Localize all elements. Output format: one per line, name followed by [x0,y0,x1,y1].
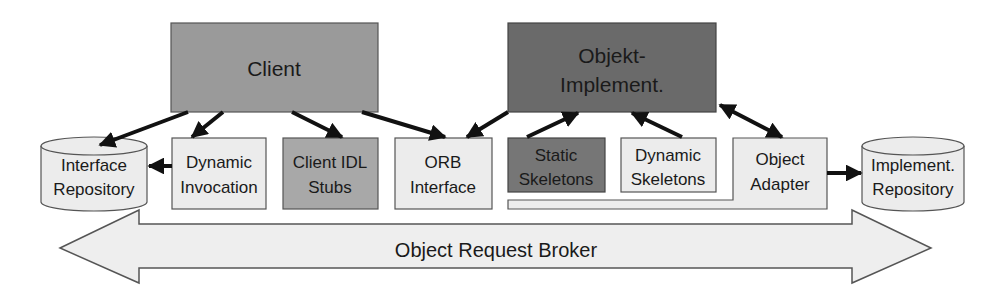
orb-interface-box: ORB Interface [395,138,492,209]
implementation-label-line2: Implement. [560,73,664,96]
dynamic-invocation-line1: Dynamic [186,153,253,172]
client-box: Client [171,23,378,112]
implementation-label-line1: Objekt- [578,44,646,67]
static-skeletons-box: Static Skeletons [508,138,605,192]
orb-diagram: Object Request Broker Client Objekt- Imp… [0,0,1007,297]
dynamic-skeletons-line1: Dynamic [635,146,702,165]
implementation-repository-cylinder: Implement. Repository [862,137,964,211]
arrow-implementation-object-adapter [720,105,782,137]
arrow-client-to-client-idl-stubs [292,112,342,137]
interface-repository-cylinder: Interface Repository [41,137,147,211]
implementation-repository-line1: Implement. [871,156,955,175]
interface-repository-line2: Repository [53,180,135,199]
arrow-dynamic-skeletons-to-implementation [632,113,682,137]
object-adapter-line1: Object [755,150,804,169]
object-implementation-box: Objekt- Implement. [508,23,716,112]
static-skeletons-line1: Static [535,146,578,165]
dynamic-invocation-box: Dynamic Invocation [172,138,266,209]
client-idl-stubs-line1: Client IDL [293,153,368,172]
implementation-repository-line2: Repository [872,180,954,199]
object-adapter-line2: Adapter [750,175,810,194]
static-skeletons-line2: Skeletons [519,170,594,189]
orb-interface-line2: Interface [410,178,476,197]
arrow-implementation-to-orb-interface [467,112,508,137]
dynamic-skeletons-box: Dynamic Skeletons [621,138,716,192]
interface-repository-line1: Interface [61,156,127,175]
client-idl-stubs-line2: Stubs [308,178,351,197]
dynamic-skeletons-line2: Skeletons [631,170,706,189]
dynamic-invocation-line2: Invocation [180,178,258,197]
arrow-static-skeletons-to-implementation [527,113,578,137]
client-idl-stubs-box: Client IDL Stubs [283,138,378,209]
object-request-broker: Object Request Broker [60,210,931,283]
arrow-client-to-orb-interface [362,112,445,137]
client-label: Client [247,57,301,80]
broker-label: Object Request Broker [395,239,598,261]
orb-interface-line1: ORB [425,153,462,172]
arrow-client-to-dynamic-invocation [192,112,223,137]
